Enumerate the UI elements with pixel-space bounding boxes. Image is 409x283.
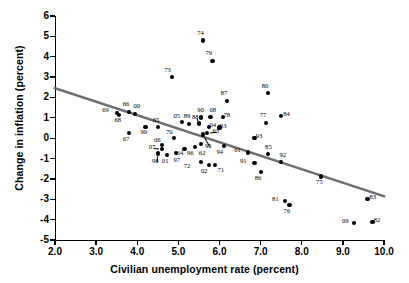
data-point-label: 78 (224, 112, 231, 119)
data-point-label: 82 (374, 217, 381, 224)
data-point-label: 01 (162, 158, 169, 165)
data-point-label: 04 (210, 122, 217, 129)
y-tick-label: 5 (27, 31, 49, 41)
data-point-label: 76 (284, 208, 291, 215)
data-point (187, 122, 191, 126)
x-tick (137, 240, 138, 245)
x-tick-label: 8.0 (282, 247, 322, 257)
data-point-label: 07 (149, 144, 156, 151)
phillips-curve-scatter-chart: Change in inflation (percent) 6543210-1-… (0, 0, 409, 283)
x-tick (54, 240, 55, 245)
x-tick-label: 4.0 (117, 247, 157, 257)
x-tick-label: 5.0 (158, 247, 198, 257)
data-point (246, 150, 250, 154)
data-point (127, 110, 131, 114)
data-point-label: 08 (210, 107, 217, 114)
data-point-label: 68 (115, 117, 122, 124)
data-point-label: 80 (262, 83, 269, 90)
data-point-label: 99 (140, 129, 147, 136)
data-point-label: 61 (234, 147, 241, 154)
data-point (156, 151, 160, 155)
data-point-label: 85 (265, 144, 272, 151)
data-point-label: 62 (199, 150, 206, 157)
y-tick-label: -1 (27, 154, 49, 164)
data-point-label: 02 (201, 168, 208, 175)
data-point (201, 38, 205, 42)
data-point-label: 71 (217, 167, 224, 174)
data-point-label: 93 (256, 133, 263, 140)
data-point-label: 74 (197, 30, 204, 37)
y-tick-label: -3 (27, 194, 49, 204)
data-point-label: 05 (173, 113, 180, 120)
data-point-label: 98 (152, 158, 159, 165)
x-tick (342, 240, 343, 245)
data-point-label: 84 (283, 111, 290, 118)
data-point-label: 66 (123, 101, 130, 108)
data-point-label: 96 (187, 150, 194, 157)
data-point-label: 06 (154, 137, 161, 144)
data-point-label: 67 (123, 136, 130, 143)
y-tick-label: 3 (27, 72, 49, 82)
y-tick-label: 2 (27, 92, 49, 102)
data-point-label: 69 (102, 107, 109, 114)
data-point-label: 65 (153, 117, 160, 124)
x-tick (219, 240, 220, 245)
plot-area: 6543210-1-2-3-4-5 2.03.04.05.06.07.08.09… (55, 16, 384, 240)
data-point-label: 94 (217, 149, 224, 156)
data-point-label: 72 (184, 163, 191, 170)
data-point-label: 00 (133, 103, 140, 110)
y-tick-label: -4 (27, 215, 49, 225)
data-point-label: 89 (184, 113, 191, 120)
x-tick-label: 3.0 (76, 247, 116, 257)
y-tick-label: 4 (27, 52, 49, 62)
data-point (201, 132, 205, 136)
x-axis-title: Civilian unemployment rate (percent) (0, 263, 409, 275)
data-point-label: 81 (272, 196, 279, 203)
y-tick-label: 1 (27, 113, 49, 123)
x-tick-label: 6.0 (200, 247, 240, 257)
data-point (197, 121, 201, 125)
y-tick-label: 0 (27, 133, 49, 143)
x-tick (301, 240, 302, 245)
x-tick-label: 9.0 (323, 247, 363, 257)
x-tick-label: 10.0 (364, 247, 404, 257)
data-point-label: 83 (370, 194, 377, 201)
x-tick (383, 240, 384, 245)
x-tick (178, 240, 179, 245)
data-point-label: 97 (173, 157, 180, 164)
data-point (160, 147, 164, 151)
data-point-label: 87 (221, 90, 228, 97)
data-point (156, 125, 160, 129)
y-tick-label: -2 (27, 174, 49, 184)
y-tick-label: -5 (27, 235, 49, 245)
data-point-label: 91 (240, 158, 247, 165)
x-tick (260, 240, 261, 245)
data-point-label: 90 (197, 107, 204, 114)
data-point-label: 92 (279, 152, 286, 159)
data-point-label: 86 (255, 175, 262, 182)
data-point-label: 79 (205, 50, 212, 57)
data-point-label: 73 (164, 67, 171, 74)
data-point (225, 99, 229, 103)
x-tick (95, 240, 96, 245)
data-point-label: 88 (192, 114, 199, 121)
data-point-label: 75 (316, 179, 323, 186)
y-axis-title: Change in inflation (percent) (13, 13, 25, 223)
y-tick-label: 6 (27, 11, 49, 21)
data-point (199, 115, 203, 119)
data-point-label: 70 (166, 129, 173, 136)
x-tick-label: 2.0 (35, 247, 75, 257)
x-tick-label: 7.0 (241, 247, 281, 257)
data-point-label: 09 (342, 218, 349, 225)
data-point (264, 121, 268, 125)
data-point-label: 95 (205, 143, 212, 150)
data-point-label: 77 (260, 112, 267, 119)
data-point (208, 115, 212, 119)
data-point (210, 59, 214, 63)
data-point-label: 03 (220, 123, 227, 130)
data-point (252, 161, 256, 165)
